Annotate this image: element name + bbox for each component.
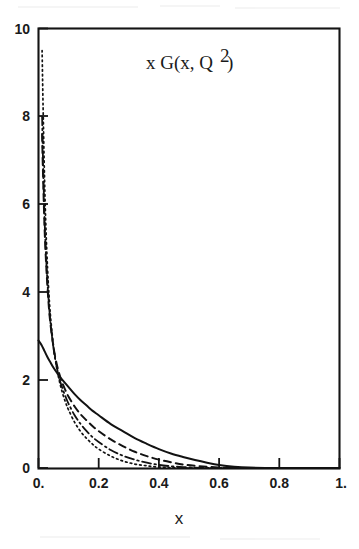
figure-container: 10 8 6 4 2 0 0. 0.2 0.4 0.6 0.8 1. x G(x… [0, 0, 359, 549]
y-tick-label-4: 4 [22, 284, 30, 300]
y-tick-label-0: 0 [22, 460, 30, 476]
x-tick-label-0-4: 0.4 [149, 475, 169, 491]
y-tick-label-8: 8 [22, 108, 30, 124]
x-tick-label-0-8: 0.8 [270, 475, 290, 491]
x-tick-label-0: 0. [33, 475, 45, 491]
y-tick-label-6: 6 [22, 196, 30, 212]
x-axis-label: x [175, 509, 184, 528]
x-tick-label-1: 1. [335, 475, 347, 491]
gluon-distribution-plot: 10 8 6 4 2 0 0. 0.2 0.4 0.6 0.8 1. x G(x… [0, 0, 359, 549]
plot-title-prefix: x G(x, Q [146, 52, 213, 74]
plot-title-suffix: ) [227, 52, 233, 74]
y-tick-label-2: 2 [22, 372, 30, 388]
x-tick-label-0-6: 0.6 [209, 475, 229, 491]
x-tick-label-0-2: 0.2 [89, 475, 109, 491]
y-tick-label-10: 10 [14, 21, 30, 37]
